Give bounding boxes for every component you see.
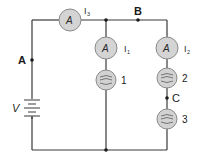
point-a-dot <box>30 58 34 62</box>
bulb-3: 3 <box>157 109 188 129</box>
point-b-dot <box>136 18 140 22</box>
ammeter-i1: A I 1 <box>95 37 130 59</box>
bulb-label: 2 <box>182 73 188 84</box>
junction-top <box>104 18 108 22</box>
ammeter-i2: A I 2 <box>156 37 190 59</box>
voltage-label: V <box>12 102 21 114</box>
bulb-1: 1 <box>96 70 127 90</box>
junction-bottom <box>104 148 108 152</box>
point-a-label: A <box>18 54 26 66</box>
bulb-icon <box>96 70 116 90</box>
current-subscript: 3 <box>87 11 90 17</box>
bulb-label: 3 <box>182 114 188 125</box>
ammeter-symbol: A <box>162 43 170 54</box>
bulb-label: 1 <box>121 75 127 86</box>
ammeter-symbol: A <box>65 15 73 26</box>
point-b-label: B <box>134 5 142 17</box>
current-subscript: 2 <box>187 49 190 55</box>
point-c-dot <box>165 96 169 100</box>
bulb-icon <box>157 109 177 129</box>
battery-icon <box>22 99 42 119</box>
bulb-icon <box>157 68 177 88</box>
bulb-2: 2 <box>157 68 188 88</box>
point-c-label: C <box>172 92 180 104</box>
ammeter-i3: A I 3 <box>59 6 90 31</box>
current-subscript: 1 <box>127 49 130 55</box>
circuit-diagram: A B C V A I 3 A I 1 A I 2 1 <box>0 0 202 162</box>
ammeter-symbol: A <box>101 43 109 54</box>
